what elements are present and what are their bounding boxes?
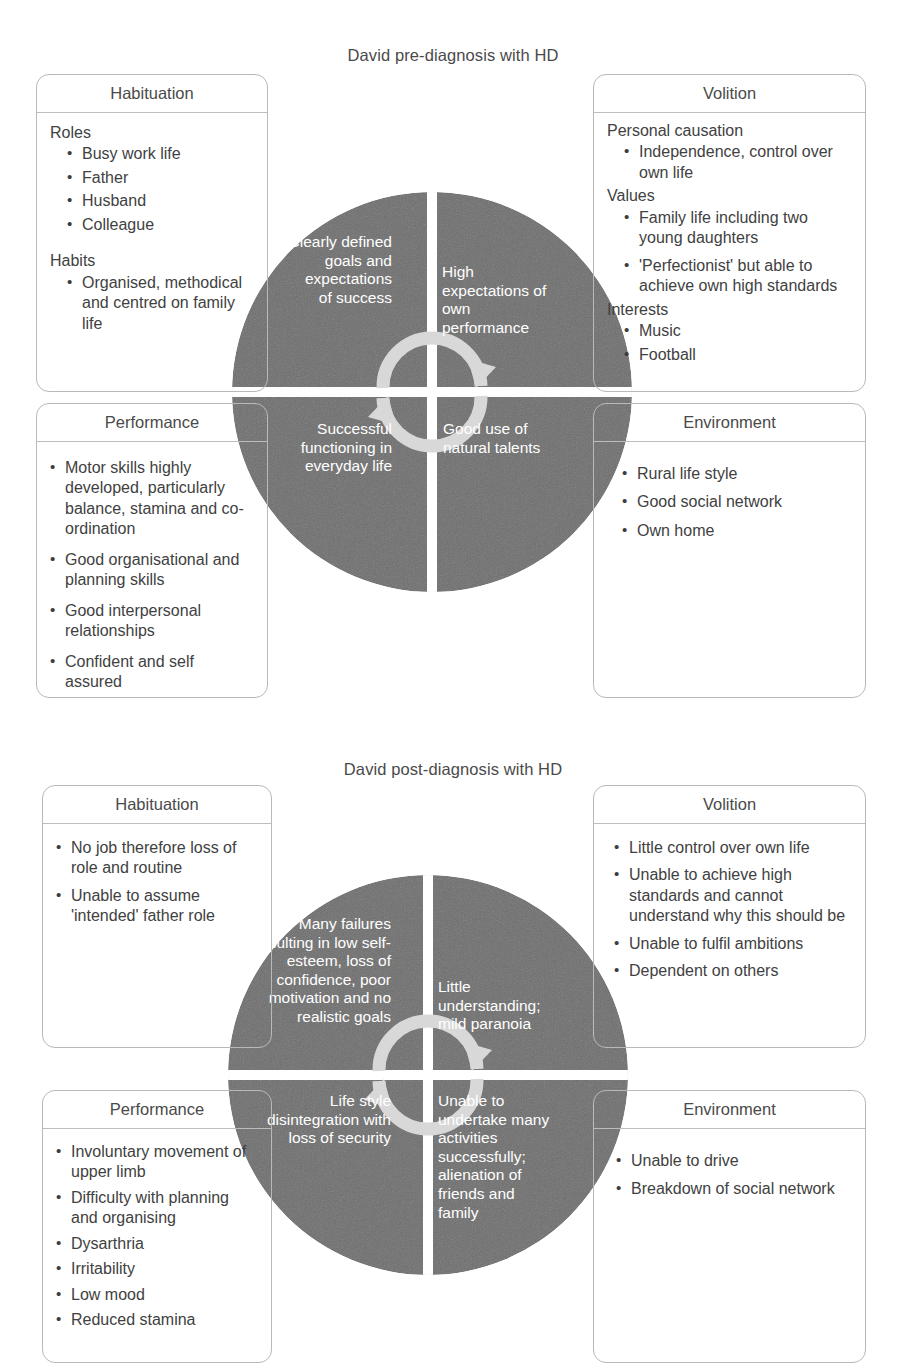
group-label-interests: Interests bbox=[607, 300, 853, 320]
box-header-volition: Volition bbox=[594, 786, 865, 824]
box-header-performance: Performance bbox=[43, 1091, 271, 1129]
box-header-habituation: Habituation bbox=[37, 75, 267, 113]
box-performance[interactable]: Performance Involuntary movement of uppe… bbox=[42, 1090, 272, 1363]
list-item: Involuntary movement of upper limb bbox=[56, 1142, 259, 1183]
list-roles: Busy work life Father Husband Colleague bbox=[67, 144, 255, 235]
list-item: Colleague bbox=[67, 215, 255, 235]
box-environment[interactable]: Environment Rural life style Good social… bbox=[593, 403, 866, 698]
list-item: Own home bbox=[622, 521, 853, 541]
box-header-environment: Environment bbox=[594, 404, 865, 442]
box-volition[interactable]: Volition Little control over own life Un… bbox=[593, 785, 866, 1048]
box-body-habituation: Roles Busy work life Father Husband Coll… bbox=[37, 113, 267, 343]
list-item: Football bbox=[624, 345, 853, 365]
list-performance: Motor skills highly developed, particula… bbox=[50, 458, 255, 693]
box-body-habituation: No job therefore loss of role and routin… bbox=[43, 824, 271, 936]
box-body-performance: Motor skills highly developed, particula… bbox=[37, 442, 267, 702]
list-item: Irritability bbox=[56, 1259, 259, 1279]
list-item: Dependent on others bbox=[614, 961, 853, 981]
list-habits: Organised, methodical and centred on fam… bbox=[67, 273, 255, 334]
list-item: Busy work life bbox=[67, 144, 255, 164]
box-body-environment: Rural life style Good social network Own… bbox=[594, 442, 865, 550]
list-item: Reduced stamina bbox=[56, 1310, 259, 1330]
wheel-divider-horizontal bbox=[228, 1070, 628, 1080]
box-header-performance: Performance bbox=[37, 404, 267, 442]
list-habituation: No job therefore loss of role and routin… bbox=[56, 838, 259, 927]
group-label-roles: Roles bbox=[50, 123, 255, 143]
diagram-pre-diagnosis: David pre-diagnosis with HD bbox=[0, 0, 906, 710]
diagram-title: David post-diagnosis with HD bbox=[0, 760, 906, 779]
list-personal-causation: Independence, control over own life bbox=[624, 142, 853, 183]
box-volition[interactable]: Volition Personal causation Independence… bbox=[593, 74, 866, 392]
wheel-divider-horizontal bbox=[232, 387, 632, 397]
group-label-personal-causation: Personal causation bbox=[607, 121, 853, 141]
list-item: Organised, methodical and centred on fam… bbox=[67, 273, 255, 334]
list-item: Unable to drive bbox=[616, 1151, 853, 1171]
spacer bbox=[50, 238, 255, 251]
moho-wheel bbox=[232, 192, 632, 592]
list-item: Family life including two young daughter… bbox=[624, 208, 853, 249]
group-label-habits: Habits bbox=[50, 251, 255, 271]
box-body-volition: Personal causation Independence, control… bbox=[594, 113, 865, 374]
list-item: Husband bbox=[67, 191, 255, 211]
box-habituation[interactable]: Habituation No job therefore loss of rol… bbox=[42, 785, 272, 1048]
box-body-performance: Involuntary movement of upper limb Diffi… bbox=[43, 1129, 271, 1340]
wheel-svg bbox=[232, 192, 632, 592]
list-item: Good interpersonal relationships bbox=[50, 601, 255, 642]
list-item: Unable to fulfil ambitions bbox=[614, 934, 853, 954]
list-performance: Involuntary movement of upper limb Diffi… bbox=[56, 1142, 259, 1331]
list-item: Confident and self assured bbox=[50, 652, 255, 693]
list-environment: Rural life style Good social network Own… bbox=[622, 464, 853, 541]
list-item: No job therefore loss of role and routin… bbox=[56, 838, 259, 879]
list-item: Unable to achieve high standards and can… bbox=[614, 865, 853, 926]
diagram-post-diagnosis: David post-diagnosis with HD bbox=[0, 710, 906, 1365]
moho-wheel bbox=[228, 875, 628, 1275]
box-performance[interactable]: Performance Motor skills highly develope… bbox=[36, 403, 268, 698]
box-header-habituation: Habituation bbox=[43, 786, 271, 824]
list-item: Breakdown of social network bbox=[616, 1179, 853, 1199]
list-item: Good social network bbox=[622, 492, 853, 512]
list-item: Motor skills highly developed, particula… bbox=[50, 458, 255, 540]
list-item: Independence, control over own life bbox=[624, 142, 853, 183]
box-header-environment: Environment bbox=[594, 1091, 865, 1129]
wheel-svg bbox=[228, 875, 628, 1275]
list-interests: Music Football bbox=[624, 321, 853, 365]
group-label-values: Values bbox=[607, 186, 853, 206]
list-item: Father bbox=[67, 168, 255, 188]
box-habituation[interactable]: Habituation Roles Busy work life Father … bbox=[36, 74, 268, 392]
box-header-volition: Volition bbox=[594, 75, 865, 113]
list-item: Difficulty with planning and organising bbox=[56, 1188, 259, 1229]
list-volition: Little control over own life Unable to a… bbox=[614, 838, 853, 982]
list-item: Good organisational and planning skills bbox=[50, 550, 255, 591]
diagram-title: David pre-diagnosis with HD bbox=[0, 46, 906, 65]
list-values: Family life including two young daughter… bbox=[624, 208, 853, 297]
box-body-environment: Unable to drive Breakdown of social netw… bbox=[594, 1129, 865, 1209]
list-item: Music bbox=[624, 321, 853, 341]
list-item: Rural life style bbox=[622, 464, 853, 484]
list-item: 'Perfectionist' but able to achieve own … bbox=[624, 256, 853, 297]
list-environment: Unable to drive Breakdown of social netw… bbox=[616, 1151, 853, 1200]
list-item: Unable to assume 'intended' father role bbox=[56, 886, 259, 927]
box-body-volition: Little control over own life Unable to a… bbox=[594, 824, 865, 991]
list-item: Dysarthria bbox=[56, 1234, 259, 1254]
list-item: Low mood bbox=[56, 1285, 259, 1305]
box-environment[interactable]: Environment Unable to drive Breakdown of… bbox=[593, 1090, 866, 1363]
list-item: Little control over own life bbox=[614, 838, 853, 858]
